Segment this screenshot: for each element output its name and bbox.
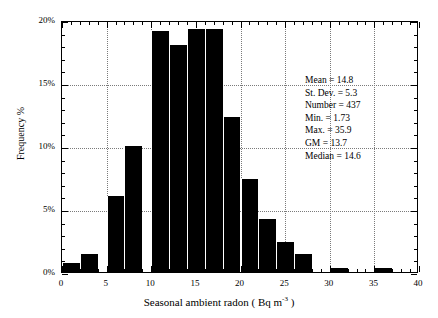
x-axis-title-text: Seasonal ambient radon ( Bq m [144,296,282,308]
x-tick-bottom [98,269,99,272]
x-tick-top [357,22,358,25]
x-tick-top [89,22,90,25]
x-tick-bottom [392,269,393,272]
y-tick-right [411,274,417,275]
x-tick-top [142,22,143,25]
x-tick-bottom [151,266,152,272]
x-tick-top [348,22,349,25]
x-tick-bottom [348,269,349,272]
histogram-bar [151,31,169,272]
x-tick-bottom [330,266,331,272]
y-tick-left [62,47,65,48]
y-tick-left [62,35,65,36]
y-tick-left [62,161,65,162]
x-tick-bottom [142,269,143,272]
y-tick-label: 5% [15,204,55,214]
x-tick-bottom [339,269,340,272]
x-tick-bottom [187,269,188,272]
y-tick-right [414,60,417,61]
y-tick-left [62,85,68,86]
x-tick-label: 25 [264,278,304,288]
y-tick-right [414,72,417,73]
x-tick-top [330,22,331,28]
y-tick-right [414,123,417,124]
x-tick-bottom [205,269,206,272]
y-tick-left [62,123,65,124]
y-tick-right [411,211,417,212]
y-tick-left [62,211,68,212]
y-tick-right [411,85,417,86]
x-tick-bottom [62,266,63,272]
x-tick-bottom [303,269,304,272]
x-tick-top [303,22,304,25]
y-tick-left [62,60,65,61]
chart-container: Frequency % 0%5%10%15%20% Mean = 14.8 St… [0,0,438,318]
x-axis-title: Seasonal ambient radon ( Bq m-3 ) [0,295,438,308]
x-tick-top [178,22,179,25]
x-tick-bottom [249,269,250,272]
x-tick-bottom [410,269,411,272]
x-tick-label: 40 [398,278,438,288]
y-tick-left [62,261,65,262]
x-tick-label: 10 [130,278,170,288]
y-tick-right [414,186,417,187]
histogram-bar [223,117,241,272]
y-tick-label: 20% [15,15,55,25]
x-tick-bottom [383,269,384,272]
x-tick-bottom [196,266,197,272]
histogram-bar [187,29,205,272]
y-tick-left [62,72,65,73]
y-tick-right [414,198,417,199]
x-tick-top [339,22,340,25]
x-tick-top [205,22,206,25]
stat-number: Number = 437 [305,99,361,112]
x-tick-top [107,22,108,28]
y-tick-right [411,22,417,23]
x-tick-bottom [116,269,117,272]
x-tick-top [258,22,259,25]
x-tick-top [321,22,322,25]
x-tick-label: 5 [86,278,126,288]
x-tick-label: 20 [220,278,260,288]
x-tick-top [71,22,72,25]
histogram-bar [169,45,187,272]
x-tick-top [232,22,233,25]
y-tick-left [62,135,65,136]
x-tick-top [241,22,242,28]
y-tick-right [414,98,417,99]
y-tick-right [414,236,417,237]
x-tick-bottom [214,269,215,272]
x-tick-top [116,22,117,25]
x-tick-bottom [71,269,72,272]
y-tick-left [62,249,65,250]
x-tick-bottom [419,266,420,272]
y-tick-label: 15% [15,78,55,88]
y-tick-right [414,110,417,111]
y-tick-right [414,173,417,174]
y-tick-left [62,22,68,23]
x-tick-bottom [107,266,108,272]
x-tick-top [133,22,134,25]
x-tick-bottom [133,269,134,272]
x-tick-label: 35 [353,278,393,288]
x-tick-bottom [169,269,170,272]
x-tick-top [419,22,420,28]
x-tick-bottom [294,269,295,272]
y-tick-left [62,98,65,99]
x-tick-bottom [223,269,224,272]
x-tick-top [223,22,224,25]
x-tick-label: 30 [309,278,349,288]
x-tick-bottom [312,269,313,272]
x-tick-top [124,22,125,25]
x-tick-bottom [365,269,366,272]
statistics-annotation: Mean = 14.8 St. Dev. = 5.3 Number = 437 … [305,74,361,162]
y-tick-left [62,236,65,237]
histogram-bar [124,146,142,272]
x-tick-bottom [241,266,242,272]
x-tick-label: 15 [175,278,215,288]
x-tick-bottom [258,269,259,272]
y-tick-right [414,161,417,162]
histogram-bar [241,179,259,272]
y-tick-right [414,249,417,250]
x-tick-bottom [321,269,322,272]
